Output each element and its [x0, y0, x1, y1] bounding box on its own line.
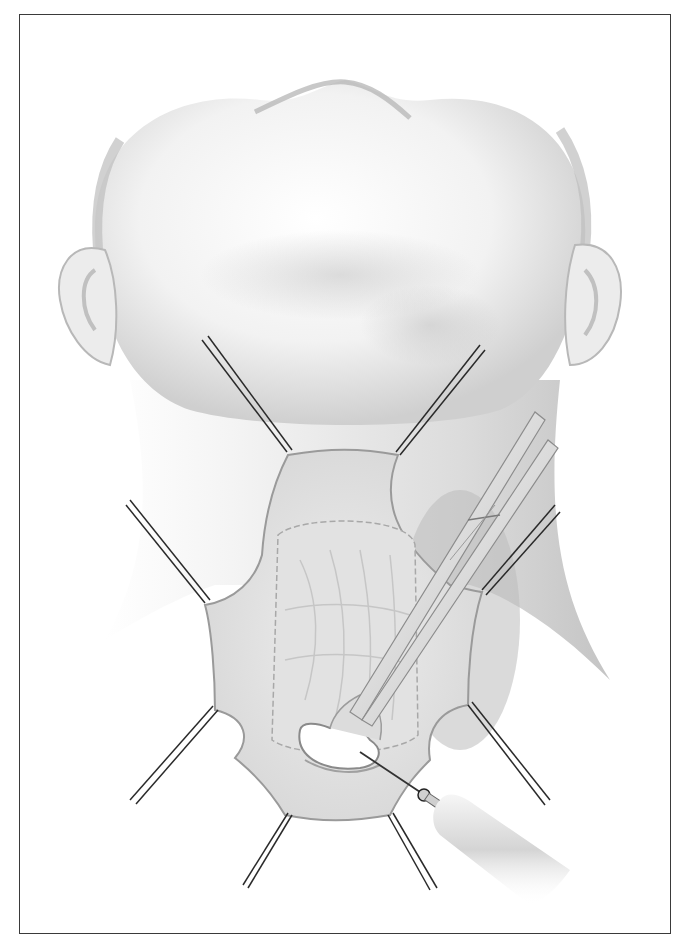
suture-low-left	[130, 706, 218, 804]
suture-bottom-left	[243, 813, 292, 888]
ear-right	[565, 244, 621, 365]
ear-left	[59, 248, 116, 365]
jaw-shadow-right	[360, 285, 500, 365]
suture-bottom-right	[388, 813, 437, 890]
surgical-illustration	[0, 0, 682, 949]
cautery-handle	[433, 795, 570, 905]
